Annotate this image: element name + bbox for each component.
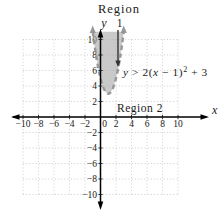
region-1-label: Region	[98, 2, 140, 16]
y-tick-label: 4	[92, 81, 97, 91]
inequality-mid: − 1)	[159, 66, 183, 79]
y-tick-label: −4	[87, 143, 97, 153]
inequality-tail: + 3	[188, 66, 208, 78]
x-tick-label: −8	[33, 119, 43, 129]
y-tick-label: 6	[92, 66, 97, 76]
y-tick-label: −6	[87, 159, 97, 169]
x-tick-label-zero: 0	[102, 119, 107, 129]
y-tick-label: 2	[92, 97, 97, 107]
inequality-operator: > 2(	[129, 66, 153, 79]
x-tick-label: −6	[49, 119, 59, 129]
region-1-number: 1	[117, 17, 123, 29]
y-axis-label: y	[100, 16, 107, 30]
x-tick-label: 10	[173, 119, 183, 129]
x-axis-arrow-right-icon	[201, 114, 210, 120]
y-tick-label: −8	[87, 174, 97, 184]
inequality-label: y > 2(x − 1)2 + 3	[122, 65, 208, 79]
x-tick-label: −4	[64, 119, 74, 129]
inequality-graph-figure: −10 −8 −6 −4 −2 0 2 4 6 8 10 10 8 6 4 2 …	[0, 0, 223, 212]
region-2-label: Region 2	[117, 102, 163, 115]
x-tick-label: 6	[145, 119, 150, 129]
inequality-x: x	[152, 66, 159, 78]
coordinate-plane: −10 −8 −6 −4 −2 0 2 4 6 8 10 10 8 6 4 2 …	[0, 0, 223, 212]
y-tick-label: −2	[87, 128, 97, 138]
parabola-branch-arrow-left-icon	[90, 26, 96, 34]
x-tick-labels: −10 −8 −6 −4 −2 0 2 4 6 8 10	[16, 119, 183, 129]
y-tick-label: −10	[82, 190, 97, 200]
x-tick-label: 8	[160, 119, 165, 129]
x-tick-label: 2	[114, 119, 119, 129]
y-axis-arrow-down-icon	[98, 202, 104, 211]
x-tick-label: −10	[16, 119, 31, 129]
x-axis-label: x	[211, 103, 218, 117]
x-tick-label: 4	[129, 119, 134, 129]
